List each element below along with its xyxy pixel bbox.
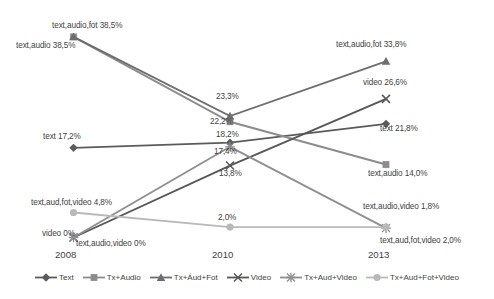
legend-item-text[interactable]: Text	[35, 272, 74, 283]
data-label: text,audio,fot 33,8%	[336, 41, 406, 49]
legend-label: Tx+Aud+Fot+Video	[390, 274, 459, 282]
data-label: text,aud,fot,video 2,0%	[380, 237, 461, 245]
marker-triangle	[382, 57, 391, 65]
legend-item-tx-aud-fot-video[interactable]: Tx+Aud+Fot+Video	[366, 272, 459, 283]
legend-key-circle-icon	[366, 272, 388, 283]
legend-label: Video	[251, 274, 271, 282]
data-label: text,audio,video 0%	[76, 240, 146, 248]
data-label: 2,0%	[218, 214, 236, 222]
data-label: text,audio 14,0%	[368, 170, 427, 178]
marker-square	[90, 274, 97, 281]
data-label: 17,4%	[214, 148, 237, 156]
legend-key-square-icon	[83, 272, 105, 283]
data-label: text,audio,fot 38,5%	[52, 22, 122, 30]
marker-diamond	[42, 273, 50, 281]
x-tick-label: 2013	[368, 250, 389, 260]
data-label: 13,8%	[219, 170, 242, 178]
data-label: text 21,8%	[380, 125, 418, 133]
data-label: 23,3%	[216, 93, 239, 101]
line-chart: text,audio,fot 38,5%text,audio 38,5%text…	[0, 0, 494, 299]
data-label: text,audio,video 1,8%	[363, 203, 439, 211]
marker-circle	[382, 223, 389, 230]
marker-circle	[373, 274, 380, 281]
data-label: 18,2%	[216, 131, 239, 139]
legend-label: Tx+Audio	[107, 274, 141, 282]
data-label: text,aud,fot,video 4,8%	[31, 199, 112, 207]
marker-star	[286, 273, 296, 283]
legend-label: Tx+Aud+Video	[304, 274, 357, 282]
legend-key-star-icon	[280, 272, 302, 283]
data-label: 22,2%	[210, 118, 233, 126]
x-tick-label: 2010	[212, 250, 233, 260]
legend-key-triangle-icon	[150, 272, 172, 283]
legend-key-x-icon	[227, 272, 249, 283]
marker-circle	[70, 209, 77, 216]
marker-circle	[226, 223, 233, 230]
marker-x	[382, 95, 390, 103]
chart-legend: TextTx+AudioTx+Áud+FotVideoTx+Aud+VideoT…	[0, 272, 494, 283]
legend-key-diamond-icon	[35, 272, 57, 283]
marker-diamond	[69, 144, 77, 152]
legend-item-tx-aud-video[interactable]: Tx+Aud+Video	[280, 272, 357, 283]
legend-label: Tx+Áud+Fot	[174, 274, 218, 282]
data-label: video 0%	[42, 230, 75, 238]
data-label: video 26,6%	[363, 79, 407, 87]
x-tick-label: 2008	[55, 250, 76, 260]
legend-item-video[interactable]: Video	[227, 272, 271, 283]
data-label: text,audio 38,5%	[16, 42, 75, 50]
marker-square	[383, 161, 390, 168]
legend-item-tx-ud-fot[interactable]: Tx+Áud+Fot	[150, 272, 218, 283]
legend-label: Text	[59, 274, 74, 282]
legend-item-tx-audio[interactable]: Tx+Audio	[83, 272, 141, 283]
data-label: text 17,2%	[43, 133, 81, 141]
